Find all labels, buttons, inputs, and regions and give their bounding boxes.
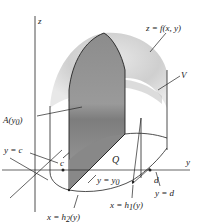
d-point	[149, 169, 152, 172]
c-label: c	[60, 158, 64, 168]
z-axis-label: z	[37, 16, 42, 26]
x-equals-h1-label: x = h1(y)	[109, 200, 143, 212]
y-equals-c-label: y = c	[3, 145, 23, 155]
region-q-label: Q	[112, 154, 120, 165]
y-axis-label: y	[185, 157, 190, 167]
x-equals-h2-label: x = h2(y)	[46, 212, 80, 224]
h2-point	[68, 189, 70, 191]
c-point	[62, 169, 65, 172]
x-axis	[10, 150, 62, 198]
cross-section-label: A(y0)	[2, 115, 23, 127]
y-equals-d-label: y = d	[154, 188, 175, 198]
h1-line	[133, 118, 141, 182]
surface-label: z = f(x, y)	[145, 23, 181, 33]
y-equals-y0-label: y = y0	[96, 175, 120, 187]
d-label: d	[154, 175, 159, 185]
h1-point	[132, 181, 134, 183]
volume-label: V	[181, 70, 188, 80]
z-axis: z	[35, 16, 42, 212]
volume-diagram: z y	[0, 0, 199, 224]
